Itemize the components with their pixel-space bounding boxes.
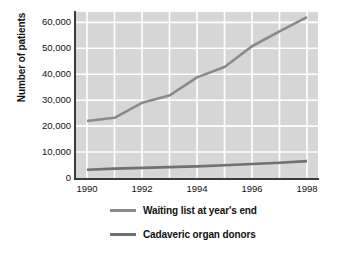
x-tick-label: 1998: [287, 183, 327, 194]
x-tick-label: 1992: [122, 183, 162, 194]
y-tick-label: 60,000: [25, 17, 71, 26]
x-tick-label: 1990: [67, 183, 107, 194]
y-tick-label: 40,000: [25, 69, 71, 78]
plot-svg: [76, 12, 318, 178]
legend-swatch-waiting-list: [110, 209, 136, 212]
y-tick-label: 10,000: [25, 147, 71, 156]
chart-figure: Number of patients 010,00020,00030,00040…: [0, 0, 340, 254]
legend-item-cadaveric-donors: Cadaveric organ donors: [0, 222, 340, 246]
y-tick-label: 30,000: [25, 95, 71, 104]
y-axis-line: [74, 11, 76, 179]
y-tick-label: 50,000: [25, 43, 71, 52]
x-axis-line: [74, 178, 319, 180]
y-tick-label: 20,000: [25, 121, 71, 130]
x-tick-label: 1996: [232, 183, 272, 194]
x-tick-label: 1994: [177, 183, 217, 194]
legend-item-waiting-list: Waiting list at year's end: [0, 198, 340, 222]
chart-legend: Waiting list at year's end Cadaveric org…: [0, 198, 340, 246]
legend-swatch-cadaveric-donors: [110, 233, 136, 236]
y-tick-label: 0: [25, 173, 71, 182]
plot-area: [76, 12, 318, 178]
legend-label-waiting-list: Waiting list at year's end: [143, 205, 257, 216]
legend-label-cadaveric-donors: Cadaveric organ donors: [143, 229, 256, 240]
